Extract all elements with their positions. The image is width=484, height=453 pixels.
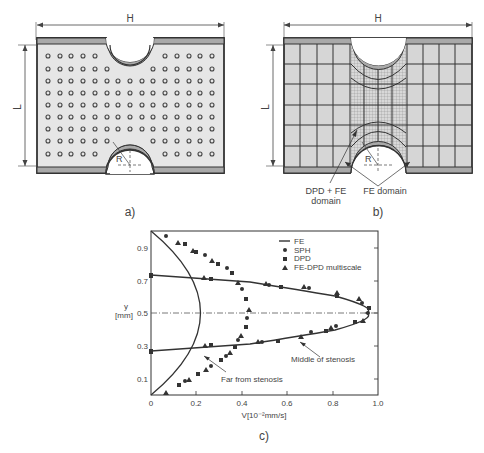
- annotation-far-from-stenosis: Far from stenosis: [221, 375, 283, 384]
- legend-sph-marker: [283, 248, 287, 252]
- y-axis-label-2: [mm]: [115, 311, 133, 320]
- r-label-b: R: [365, 154, 372, 164]
- legend: FE SPH DPD FE-DPD multiscale: [279, 237, 362, 272]
- h-label: H: [126, 13, 133, 24]
- y-axis-label-1: y: [124, 302, 128, 311]
- r-label: R: [116, 154, 123, 164]
- l-label-b: L: [260, 104, 271, 110]
- fe-domain-label: FE domain: [363, 186, 407, 196]
- svg-text:0.2: 0.2: [190, 399, 202, 408]
- annotation-middle-of-stenosis: Middle of stenosis: [291, 355, 355, 364]
- svg-text:0.9: 0.9: [137, 244, 149, 253]
- svg-text:0.1: 0.1: [137, 375, 149, 384]
- panel-a: H: [12, 13, 224, 219]
- h-label-b: H: [374, 13, 381, 24]
- svg-text:0.7: 0.7: [137, 277, 149, 286]
- legend-dpd: DPD: [294, 254, 311, 263]
- x-axis-label: V[10⁻²mm/s]: [242, 411, 287, 420]
- legend-multiscale: FE-DPD multiscale: [294, 263, 362, 272]
- x-tick-labels: 0 0.2 0.4 0.6 0.8 1.0: [149, 399, 384, 408]
- legend-multiscale-marker: [282, 265, 288, 270]
- svg-text:0.3: 0.3: [137, 342, 149, 351]
- svg-text:0.4: 0.4: [236, 399, 248, 408]
- l-label: L: [12, 104, 23, 110]
- svg-text:0.5: 0.5: [137, 309, 149, 318]
- panel-a-label: a): [125, 205, 136, 219]
- dpd-fe-domain-label-1: DPD + FE: [306, 186, 347, 196]
- legend-fe: FE: [294, 237, 304, 246]
- panel-c-chart: 0 0.2 0.4 0.6 0.8 1.0 0.1 0.3 0.5 0.7 0.…: [115, 231, 384, 443]
- legend-dpd-marker: [283, 257, 287, 261]
- svg-text:1.0: 1.0: [372, 399, 384, 408]
- panel-c-label: c): [259, 429, 269, 443]
- svg-text:0: 0: [149, 399, 154, 408]
- panel-b-label: b): [373, 205, 384, 219]
- svg-text:0.6: 0.6: [281, 399, 293, 408]
- dpd-fe-domain-label-2: domain: [311, 196, 341, 206]
- svg-text:0.8: 0.8: [327, 399, 339, 408]
- figure-canvas: H: [0, 0, 484, 453]
- y-tick-labels: 0.1 0.3 0.5 0.7 0.9: [137, 244, 149, 384]
- panel-b: H L: [260, 13, 472, 219]
